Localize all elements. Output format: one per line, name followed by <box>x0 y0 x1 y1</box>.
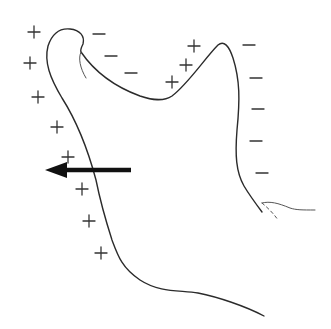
plus-sign-icon <box>28 26 40 38</box>
plus-sign-icon <box>51 121 63 133</box>
cell-outline <box>47 29 264 316</box>
arrow-left-icon <box>45 162 67 178</box>
direction-arrow <box>45 162 131 178</box>
plus-sign-icon <box>24 57 36 69</box>
plus-sign-icon <box>62 151 74 163</box>
hook-inner-fold <box>80 52 86 78</box>
plus-sign-icon <box>83 215 95 227</box>
branch-line <box>262 202 315 210</box>
plus-sign-icon <box>76 183 88 195</box>
cell-charge-diagram <box>0 0 331 329</box>
plus-sign-icon <box>188 40 200 52</box>
plus-sign-icon <box>180 59 192 71</box>
plus-sign-icon <box>95 247 107 259</box>
plus-sign-icon <box>166 76 178 88</box>
negative-charges <box>93 34 268 173</box>
plus-sign-icon <box>32 91 44 103</box>
branch-dashes <box>262 203 278 220</box>
positive-charges <box>24 26 200 259</box>
